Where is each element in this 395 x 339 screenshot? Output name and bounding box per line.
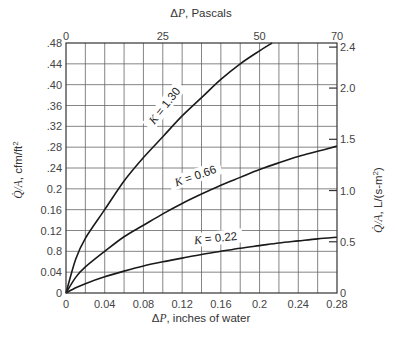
y-tick-label: .44	[47, 58, 62, 70]
y-tick-label: 0.16	[41, 204, 62, 216]
y-tick-label: .24	[47, 162, 62, 174]
chart: 00.040.080.120.160.20.240.2800.040.80.12…	[0, 0, 395, 339]
x-tick-label: 0.12	[171, 298, 192, 310]
x-tick-label: 0.04	[94, 298, 115, 310]
y-tick-label: .32	[47, 120, 62, 132]
x-axis-title: ΔP, inches of water	[152, 312, 251, 324]
y-tick-label: .40	[47, 79, 62, 91]
y2-tick-label: 0.5	[340, 236, 355, 248]
x-tick-label: 0	[63, 298, 69, 310]
y2-tick-label: 1.5	[340, 133, 355, 145]
x-tick-label: 0.28	[326, 298, 347, 310]
y-tick-label: 0.12	[41, 225, 62, 237]
y-tick-label: 0	[56, 287, 62, 299]
y-tick-label: .48	[47, 37, 62, 49]
svg-text:K = 0.22: K = 0.22	[192, 230, 237, 247]
x-tick-label: 0.16	[210, 298, 231, 310]
y-tick-label: 0.8	[47, 245, 62, 257]
y-axis-title: Q̇/A, cfm/ft2	[11, 141, 24, 199]
curve-label: K = 0.22	[188, 228, 243, 248]
y-tick-label: .28	[47, 141, 62, 153]
x2-tick-label: 25	[157, 30, 169, 42]
x2-tick-label: 50	[253, 30, 265, 42]
svg-text:K = 0.66: K = 0.66	[172, 163, 218, 189]
y2-tick-label: 2.4	[340, 41, 355, 53]
x-tick-label: 0.2	[252, 298, 267, 310]
y2-axis-title: Q̇/A, L/(s-m2)	[371, 167, 384, 233]
x2-axis-title: ΔP, Pascals	[170, 7, 232, 19]
y-tick-label: 0.04	[41, 266, 62, 278]
x2-tick-label: 0	[63, 30, 69, 42]
curve-label: K = 0.66	[168, 160, 224, 191]
y-tick-label: .36	[47, 100, 62, 112]
y-tick-label: 0.2	[47, 183, 62, 195]
x-tick-label: 0.24	[288, 298, 309, 310]
y2-tick-label: 1.0	[340, 185, 355, 197]
x-tick-label: 0.08	[133, 298, 154, 310]
y2-tick-label: 0	[340, 287, 346, 299]
y2-tick-label: 2.0	[340, 82, 355, 94]
